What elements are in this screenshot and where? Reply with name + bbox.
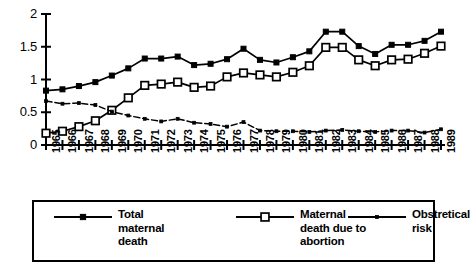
marker-open-square bbox=[240, 69, 248, 77]
marker-filled-square bbox=[44, 88, 49, 93]
legend-marker-sample bbox=[52, 209, 114, 225]
marker-small-dot bbox=[160, 120, 163, 123]
x-axis-tick-label: 1987 bbox=[413, 129, 424, 153]
marker-open-square bbox=[157, 80, 165, 88]
y-axis-tick-label: 0.5 bbox=[20, 105, 37, 118]
marker-filled-square bbox=[439, 29, 444, 34]
marker-open-square bbox=[174, 78, 182, 86]
marker-open-square bbox=[207, 82, 215, 90]
marker-filled-square bbox=[142, 56, 147, 61]
x-axis-tick-label: 1971 bbox=[150, 129, 161, 153]
marker-filled-square bbox=[126, 66, 131, 71]
x-axis-tick-label: 1986 bbox=[397, 129, 408, 153]
marker-filled-square bbox=[373, 51, 378, 56]
x-axis-tick-label: 1982 bbox=[331, 129, 342, 153]
legend-marker-sample bbox=[234, 209, 296, 225]
x-axis-tick-label: 1975 bbox=[216, 129, 227, 153]
marker-open-square bbox=[355, 56, 363, 64]
x-axis-tick-label: 1988 bbox=[430, 129, 441, 153]
x-axis-tick-label: 1970 bbox=[133, 129, 144, 153]
marker-open-square bbox=[125, 94, 132, 102]
x-axis-tick-label: 1976 bbox=[232, 129, 243, 153]
x-axis-tick-label: 1984 bbox=[364, 129, 375, 153]
marker-filled-square bbox=[257, 57, 262, 62]
marker-open-square bbox=[371, 62, 379, 69]
marker-filled-square bbox=[340, 29, 345, 34]
marker-open-square bbox=[437, 42, 445, 50]
series-line bbox=[46, 32, 441, 91]
x-axis-tick-label: 1965 bbox=[51, 129, 62, 153]
marker-filled-square bbox=[356, 44, 361, 49]
marker-filled-square bbox=[60, 87, 65, 92]
marker-open-square bbox=[261, 213, 269, 221]
marker-small-dot bbox=[61, 102, 64, 105]
y-axis-tick-label: 0 bbox=[30, 138, 37, 151]
y-axis-tick-label: 1.5 bbox=[20, 40, 37, 53]
marker-filled-square bbox=[307, 49, 312, 54]
x-axis-tick-label: 1980 bbox=[298, 129, 309, 153]
marker-filled-square bbox=[389, 42, 394, 47]
x-axis-tick-label: 1968 bbox=[100, 129, 111, 153]
x-axis-tick-label: 1972 bbox=[166, 129, 177, 153]
marker-open-square bbox=[289, 69, 297, 77]
marker-small-dot bbox=[176, 117, 179, 120]
marker-open-square bbox=[223, 73, 231, 81]
x-axis-tick-label: 1978 bbox=[265, 129, 276, 153]
marker-small-dot bbox=[94, 104, 97, 107]
marker-open-square bbox=[404, 55, 412, 63]
series-1 bbox=[44, 29, 444, 93]
marker-filled-square bbox=[274, 60, 279, 65]
marker-filled-square bbox=[76, 84, 81, 89]
marker-filled-square bbox=[241, 46, 246, 51]
marker-small-dot bbox=[209, 123, 212, 126]
marker-filled-square bbox=[406, 42, 411, 47]
marker-filled-square bbox=[93, 80, 98, 85]
series-line bbox=[46, 101, 441, 132]
marker-open-square bbox=[322, 44, 330, 52]
marker-filled-square bbox=[175, 54, 180, 59]
chart-legend: Total maternal deathMaternal death due t… bbox=[32, 200, 435, 262]
marker-filled-square bbox=[323, 29, 328, 34]
x-axis-tick-label: 1966 bbox=[67, 129, 78, 153]
marker-small-dot bbox=[242, 121, 245, 124]
marker-open-square bbox=[141, 82, 149, 90]
y-axis-tick-label: 2 bbox=[30, 7, 37, 20]
series-line bbox=[46, 46, 441, 133]
marker-open-square bbox=[306, 62, 314, 69]
x-axis-tick-label: 1983 bbox=[347, 129, 358, 153]
marker-open-square bbox=[256, 71, 264, 79]
x-axis-tick-label: 1969 bbox=[117, 129, 128, 153]
marker-filled-square bbox=[80, 214, 85, 219]
x-axis-tick-label: 1981 bbox=[314, 129, 325, 153]
marker-open-square bbox=[273, 73, 281, 81]
x-axis-tick-label: 1967 bbox=[84, 129, 95, 153]
marker-open-square bbox=[421, 50, 429, 58]
legend-item: Total maternal death bbox=[52, 208, 164, 249]
marker-open-square bbox=[190, 84, 198, 92]
x-axis-tick-label: 1989 bbox=[446, 129, 457, 153]
x-axis-tick-label: 1973 bbox=[183, 129, 194, 153]
marker-small-dot bbox=[143, 117, 146, 120]
legend-label: Total maternal death bbox=[118, 208, 164, 249]
marker-open-square bbox=[388, 56, 396, 64]
marker-open-square bbox=[42, 129, 50, 137]
marker-filled-square bbox=[208, 61, 213, 66]
marker-filled-square bbox=[290, 55, 295, 60]
marker-small-dot bbox=[226, 125, 229, 128]
x-axis-tick-label: 1977 bbox=[249, 129, 260, 153]
marker-small-dot bbox=[77, 102, 80, 105]
marker-open-square bbox=[339, 44, 347, 52]
marker-open-square bbox=[92, 117, 100, 125]
marker-small-dot bbox=[375, 215, 378, 218]
x-axis-tick-label: 1974 bbox=[199, 129, 210, 153]
marker-filled-square bbox=[225, 57, 230, 62]
marker-small-dot bbox=[45, 100, 48, 103]
marker-filled-square bbox=[159, 56, 164, 61]
marker-filled-square bbox=[192, 63, 197, 68]
marker-small-dot bbox=[110, 110, 113, 113]
marker-filled-square bbox=[422, 38, 427, 43]
plot-svg bbox=[0, 0, 451, 205]
legend-label: Obstretical risk bbox=[412, 208, 470, 235]
y-axis-tick-label: 1 bbox=[30, 73, 37, 86]
